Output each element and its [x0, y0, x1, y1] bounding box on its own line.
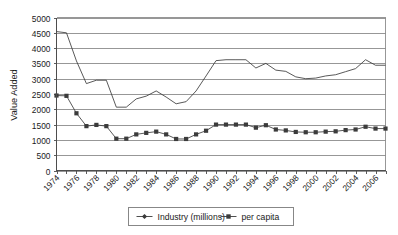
y-tick-label: 1000: [32, 136, 51, 146]
data-point-marker: [94, 123, 98, 127]
data-point-marker: [334, 129, 338, 133]
y-tick-label: 500: [37, 151, 51, 161]
data-point-marker: [324, 130, 328, 134]
x-tick-label: 1996: [260, 173, 280, 193]
x-tick-label: 1986: [161, 173, 181, 193]
data-point-marker: [154, 130, 158, 134]
data-point-marker: [363, 125, 367, 129]
y-axis-title: Value Added: [9, 69, 19, 120]
x-tick-label: 1984: [141, 173, 161, 193]
data-point-marker: [144, 131, 148, 135]
x-tick-label: 1974: [41, 173, 61, 193]
series-line: [57, 32, 386, 108]
series-2: [54, 93, 387, 141]
data-point-marker: [104, 124, 108, 128]
x-tick-label: 2006: [360, 173, 380, 193]
chart-legend: Industry (millions)per capita: [129, 208, 294, 226]
x-tick-label: 1976: [61, 173, 81, 193]
gridlines: [57, 19, 386, 172]
y-tick-label: 0: [46, 167, 51, 177]
plot-area-border: [57, 18, 386, 171]
data-point-marker: [274, 127, 278, 131]
data-point-marker: [373, 126, 377, 130]
data-point-marker: [353, 127, 357, 131]
y-tick-label: 2000: [32, 105, 51, 115]
data-point-marker: [134, 132, 138, 136]
chart-container: 0500100015002000250030003500400045005000…: [0, 0, 398, 235]
legend-square-marker-icon: [226, 214, 230, 218]
y-tick-label: 3500: [32, 59, 51, 69]
axis-lines: [57, 18, 386, 171]
x-tick-label: 1978: [81, 173, 101, 193]
data-point-marker: [244, 123, 248, 127]
data-point-marker: [224, 123, 228, 127]
data-point-marker: [314, 130, 318, 134]
x-tick-label: 1990: [201, 173, 221, 193]
x-tick-label: 1998: [280, 173, 300, 193]
line-chart: 0500100015002000250030003500400045005000…: [0, 0, 398, 235]
y-tick-label: 4500: [32, 29, 51, 39]
data-point-marker: [284, 128, 288, 132]
series-1: [57, 1, 386, 108]
x-tick-label: 2004: [340, 173, 360, 193]
x-tick-label: 1982: [121, 173, 141, 193]
legend-item-2[interactable]: per capita: [221, 212, 280, 222]
x-tick-label: 1988: [181, 173, 201, 193]
x-axis-tick-labels: 1974197619781980198219841986198819901992…: [41, 173, 381, 193]
data-point-marker: [84, 124, 88, 128]
legend-label: per capita: [242, 212, 280, 222]
data-point-marker: [74, 111, 78, 115]
data-point-marker: [214, 123, 218, 127]
data-point-marker: [64, 94, 68, 98]
data-point-marker: [164, 132, 168, 136]
data-point-marker: [344, 128, 348, 132]
data-point-marker: [184, 137, 188, 141]
data-point-marker: [124, 137, 128, 141]
y-tick-label: 4000: [32, 44, 51, 54]
legend-item-1[interactable]: Industry (millions): [137, 212, 225, 222]
x-tick-label: 1980: [101, 173, 121, 193]
data-point-marker: [234, 123, 238, 127]
data-point-marker: [114, 137, 118, 141]
data-point-marker: [304, 130, 308, 134]
data-series-group: [54, 1, 387, 142]
y-tick-label: 3000: [32, 75, 51, 85]
data-point-marker: [194, 132, 198, 136]
data-point-marker: [204, 129, 208, 133]
data-point-marker: [174, 137, 178, 141]
y-axis-tick-labels: 0500100015002000250030003500400045005000: [32, 14, 51, 177]
x-tick-label: 2002: [320, 173, 340, 193]
data-point-marker: [254, 126, 258, 130]
y-tick-label: 5000: [32, 14, 51, 24]
data-point-marker: [294, 130, 298, 134]
y-tick-label: 2500: [32, 90, 51, 100]
x-tick-label: 2000: [300, 173, 320, 193]
x-tick-label: 1994: [241, 173, 261, 193]
legend-diamond-marker-icon: [142, 214, 147, 219]
x-tick-label: 1992: [221, 173, 241, 193]
y-tick-label: 1500: [32, 121, 51, 131]
legend-label: Industry (millions): [158, 212, 225, 222]
data-point-marker: [264, 123, 268, 127]
data-point-marker: [383, 126, 387, 130]
